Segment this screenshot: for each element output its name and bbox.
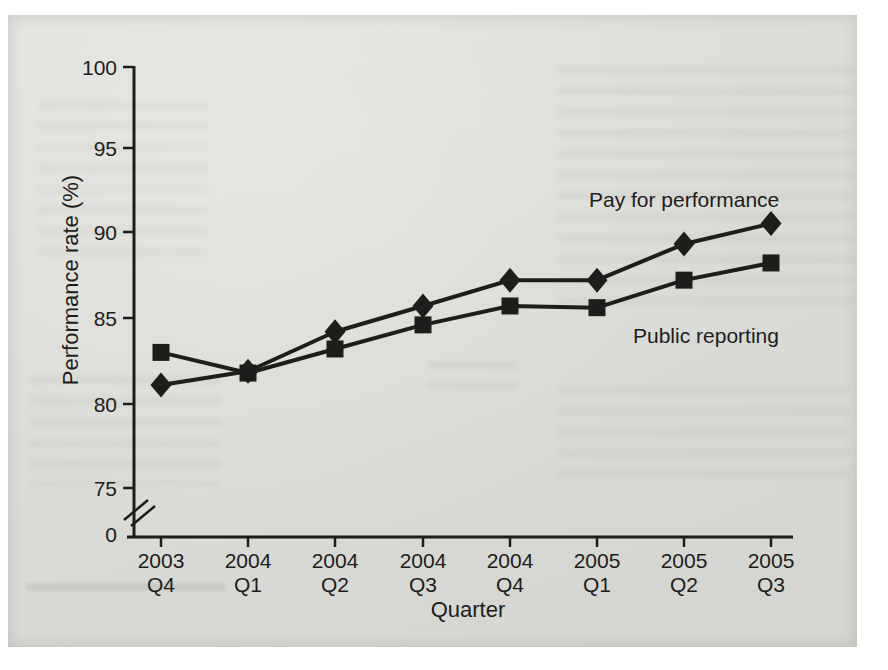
y-tick-label: 95 [94,137,117,160]
x-tick-label-quarter: Q4 [496,573,524,596]
x-tick-label-quarter: Q2 [321,573,349,596]
line-chart: 100959085807502003Q42004Q12004Q22004Q320… [0,0,888,670]
x-tick-label-quarter: Q2 [670,573,698,596]
y-origin-label: 0 [105,523,117,546]
marker-square [676,272,693,289]
marker-square [240,365,257,382]
x-tick-label-quarter: Q3 [757,573,785,596]
y-axis-break-mark [124,500,148,520]
marker-diamond [761,211,782,236]
x-tick-label-quarter: Q4 [147,573,175,596]
x-tick-label-quarter: Q3 [409,573,437,596]
marker-diamond [413,293,434,318]
x-tick-label-year: 2004 [487,549,534,572]
y-tick-label: 80 [94,393,117,416]
x-tick-label-year: 2004 [312,549,359,572]
marker-diamond [151,373,172,398]
marker-square [502,297,519,314]
marker-diamond [500,268,521,293]
y-axis-title: Performance rate (%) [58,175,83,385]
x-tick-label-quarter: Q1 [234,573,262,596]
y-tick-label: 90 [94,221,117,244]
x-tick-label-year: 2003 [138,549,185,572]
marker-square [763,254,780,271]
series-label-public-reporting: Public reporting [633,324,779,347]
y-tick-label: 100 [82,56,117,79]
x-tick-label-quarter: Q1 [583,573,611,596]
marker-square [327,340,344,357]
x-axis-title: Quarter [431,597,506,622]
x-tick-label-year: 2004 [225,549,272,572]
x-tick-label-year: 2005 [661,549,708,572]
marker-square [153,344,170,361]
series-label-pay-for-performance: Pay for performance [589,188,779,211]
marker-diamond [674,232,695,257]
y-tick-label: 85 [94,307,117,330]
x-tick-label-year: 2004 [400,549,447,572]
y-tick-label: 75 [94,477,117,500]
x-tick-label-year: 2005 [574,549,621,572]
scanned-page: 100959085807502003Q42004Q12004Q22004Q320… [0,0,888,670]
marker-square [415,316,432,333]
marker-diamond [587,268,608,293]
x-tick-label-year: 2005 [748,549,795,572]
marker-square [589,299,606,316]
